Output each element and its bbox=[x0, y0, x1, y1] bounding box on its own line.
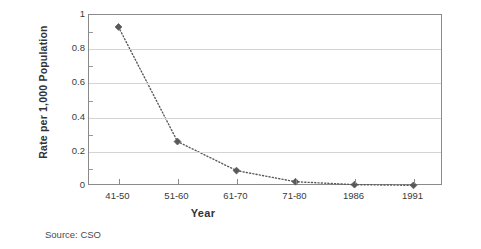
gridline bbox=[89, 49, 441, 50]
x-axis-tick-mark bbox=[237, 179, 238, 184]
y-axis-tick-label: 1 bbox=[25, 9, 85, 19]
y-axis-title: Rate per 1,000 Population bbox=[37, 0, 49, 187]
y-axis-minor-tick bbox=[89, 32, 93, 33]
x-axis-title: Year bbox=[88, 207, 318, 219]
x-axis-tick-mark bbox=[178, 179, 179, 184]
data-point-marker bbox=[115, 24, 122, 31]
y-axis-tick-label: 0.4 bbox=[25, 112, 85, 122]
gridline bbox=[89, 83, 441, 84]
gridline bbox=[89, 152, 441, 153]
y-axis-tick-label: 0 bbox=[25, 180, 85, 190]
gridline bbox=[89, 118, 441, 119]
series-line-diamond bbox=[89, 15, 443, 186]
y-axis-minor-tick bbox=[89, 101, 93, 102]
series-line bbox=[119, 27, 414, 185]
x-axis-tick-mark bbox=[355, 179, 356, 184]
x-axis-tick-mark bbox=[414, 179, 415, 184]
y-axis-tick-label: 0.2 bbox=[25, 146, 85, 156]
data-point-marker bbox=[174, 138, 181, 145]
y-axis-tick-label: 0.8 bbox=[25, 43, 85, 53]
x-axis-tick-mark bbox=[296, 179, 297, 184]
y-axis-minor-tick bbox=[89, 169, 93, 170]
chart-figure: Rate per 1,000 Population 00.20.40.60.81… bbox=[0, 0, 481, 249]
y-axis-minor-tick bbox=[89, 135, 93, 136]
x-axis-tick-label: 1991 bbox=[373, 190, 453, 201]
source-note: Source: CSO bbox=[45, 229, 101, 240]
plot-area bbox=[88, 14, 442, 185]
data-point-marker bbox=[233, 167, 240, 174]
y-axis-minor-tick bbox=[89, 66, 93, 67]
y-axis-tick-label: 0.6 bbox=[25, 77, 85, 87]
x-axis-tick-mark bbox=[119, 179, 120, 184]
